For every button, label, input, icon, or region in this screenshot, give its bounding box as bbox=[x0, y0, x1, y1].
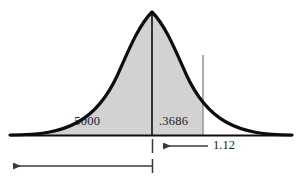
right-area-label: .3686 bbox=[159, 114, 188, 129]
z-value-label: 1.12 bbox=[213, 138, 235, 153]
distribution-chart-svg bbox=[0, 0, 302, 184]
left-area-label: .5000 bbox=[71, 114, 100, 129]
normal-distribution-figure: .5000 .3686 1.12 bbox=[0, 0, 302, 184]
